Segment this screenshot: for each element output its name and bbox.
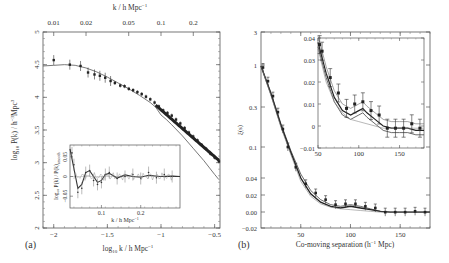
top-tick-label: 0.05: [123, 19, 136, 27]
data-point: [324, 198, 327, 201]
y-tick-label: 3: [33, 160, 41, 164]
inset-data-point: [370, 109, 373, 112]
inset-data-point: [101, 182, 103, 184]
inset-x-tick-label: 50: [315, 150, 323, 158]
data-point: [149, 98, 151, 100]
top-tick-label: 0.02: [80, 19, 93, 27]
inset-data-point: [361, 100, 364, 103]
inset-data-point: [97, 184, 99, 186]
data-point: [123, 85, 125, 87]
data-point: [93, 73, 95, 75]
y-tick-label: 2.5: [33, 190, 41, 199]
inset-data-point: [108, 172, 110, 174]
y-tick-label: 0.1: [249, 144, 257, 151]
y-tick-label: 3: [254, 29, 257, 36]
data-point: [424, 211, 427, 214]
inset-data-point: [418, 127, 421, 130]
data-point: [374, 207, 377, 210]
inset-x-tick-label: 150: [394, 150, 405, 158]
y-tick-label: 0.04: [246, 175, 258, 182]
data-point: [414, 210, 417, 213]
inset-data-point: [386, 127, 389, 130]
x-tick-label: 100: [345, 231, 356, 239]
data-point: [404, 211, 407, 214]
x-tick-label: 50: [297, 231, 305, 239]
data-point: [140, 93, 142, 95]
panel-a-inset: 0.10.20.050−0.05 log₁₀ P(k) / P(k)smooth…: [53, 145, 180, 223]
inset-data-point: [353, 103, 356, 106]
inset-data-point: [73, 164, 75, 166]
inset-data-point: [337, 92, 340, 95]
data-point: [99, 75, 101, 77]
inset-data-point: [93, 180, 95, 182]
panel-a-y-axis-label: log10 P(k) / h−3Mpc3: [10, 99, 20, 160]
inset-data-point: [81, 188, 83, 190]
inset-data-point: [378, 114, 381, 117]
data-point: [272, 95, 275, 98]
y-tick-label: 4.5: [33, 60, 41, 69]
inset-data-point: [77, 191, 79, 193]
data-point: [314, 192, 317, 195]
inset-y-tick-label: 0: [312, 123, 315, 130]
inset-y-tick-label: 0.05: [62, 152, 68, 162]
inset-data-point: [402, 127, 405, 130]
data-point: [109, 80, 111, 82]
inset-y-tick-label: 0.01: [304, 101, 315, 108]
data-point: [114, 82, 116, 84]
x-tick-label: 150: [395, 231, 406, 239]
data-point: [267, 80, 270, 83]
panel-a-inset-y-label: log₁₀ P(k) / P(k)smooth: [53, 152, 61, 199]
inset-x-tick-label: 0.1: [98, 210, 106, 216]
panel-b-label: (b): [238, 239, 250, 251]
panel-a-label: (a): [25, 239, 36, 251]
top-tick-label: 0.2: [189, 19, 198, 27]
panel-b-inset: 501001500.040.030.020.010−0.01: [300, 35, 424, 159]
panel-b-x-axis-label: Co-moving separation (h−1 Mpc): [296, 240, 395, 249]
inset-data-point: [163, 174, 165, 176]
inset-data-point: [394, 127, 397, 130]
panel-b-y-axis-label: ξ(s): [236, 125, 244, 135]
inset-data-point: [410, 122, 413, 125]
x-tick-label: −1: [157, 231, 165, 239]
y-tick-label: 2: [33, 226, 41, 230]
inset-data-point: [71, 152, 73, 154]
data-point: [119, 84, 121, 86]
data-point: [394, 211, 397, 214]
data-point: [136, 91, 138, 93]
y-tick-label: −0.02: [242, 225, 257, 232]
x-tick-label: −1.5: [101, 231, 114, 239]
inset-data-point: [321, 50, 324, 53]
inset-y-tick-label: 0.02: [304, 79, 315, 86]
panel-a-x-axis-label: log10 k / h Mpc−1: [103, 244, 154, 254]
data-point: [354, 203, 357, 206]
data-point: [128, 88, 130, 90]
data-point: [132, 89, 134, 91]
data-point: [153, 101, 155, 103]
y-tick-label: 0.02: [246, 192, 257, 199]
data-point: [104, 77, 106, 79]
inset-y-tick-label: 0: [62, 175, 68, 178]
data-point: [344, 203, 347, 206]
inset-y-tick-label: 0.04: [304, 35, 316, 42]
inset-y-tick-label: −0.01: [300, 145, 315, 152]
inset-data-point: [318, 43, 321, 46]
inset-data-point: [156, 177, 158, 179]
y-tick-label: 0.3: [249, 104, 257, 111]
data-point: [384, 211, 387, 214]
inset-x-tick-label: 100: [354, 150, 365, 158]
panel-a-top-axis-label: k / h Mpc−1: [113, 3, 148, 12]
data-point: [294, 166, 297, 169]
data-point: [334, 203, 337, 206]
inset-data-point: [89, 170, 91, 172]
data-point: [87, 71, 89, 73]
figure-canvas: −2−1.5−1−0.522.533.544.550.010.020.050.1…: [0, 0, 449, 263]
inset-data-point: [345, 107, 348, 110]
y-tick-label: 3.5: [33, 125, 41, 134]
y-tick-label: 0.00: [246, 209, 257, 216]
data-point: [287, 146, 290, 149]
x-tick-label: −2: [50, 231, 58, 239]
data-point: [304, 183, 307, 186]
inset-y-tick-label: 0.03: [304, 57, 315, 64]
data-point: [69, 63, 71, 65]
data-point: [364, 205, 367, 208]
